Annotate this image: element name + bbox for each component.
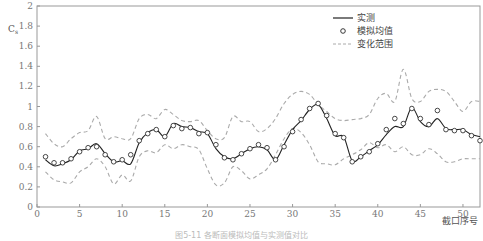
simulated-mean-marker <box>248 146 253 151</box>
x-tick-label: 15 <box>159 209 171 219</box>
simulated-mean-marker <box>52 160 57 165</box>
x-tick-label: 30 <box>287 209 299 219</box>
range-upper-line <box>46 69 481 147</box>
simulated-mean-marker <box>222 155 227 160</box>
simulated-mean-marker <box>137 138 142 143</box>
x-tick-label: 20 <box>202 209 214 219</box>
simulated-mean-marker <box>393 116 398 121</box>
x-axis-title: 截口序号 <box>442 215 478 226</box>
simulated-mean-marker <box>316 101 321 106</box>
legend-label-range: 变化范围 <box>357 38 393 49</box>
measured-path <box>46 104 481 166</box>
simulated-mean-marker <box>273 157 278 162</box>
range-lower-path <box>46 128 481 186</box>
simulated-mean-marker <box>469 133 474 138</box>
simulated-mean-marker <box>444 127 449 132</box>
x-tick-label: 45 <box>415 209 427 219</box>
x-tick-label: 40 <box>372 209 384 219</box>
simulated-mean-marker <box>171 123 176 128</box>
simulated-mean-marker <box>128 152 133 157</box>
y-tick-label: 1.6 <box>19 41 34 51</box>
y-tick-label: 0.2 <box>19 182 33 192</box>
legend-label-measured: 实测 <box>357 12 375 23</box>
simulated-mean-marker <box>205 130 210 135</box>
simulated-mean-marker <box>367 149 372 154</box>
y-tick-label: 1.2 <box>19 81 33 91</box>
simulated-mean-marker <box>103 152 108 157</box>
y-axis-title-sub: s <box>15 28 18 35</box>
x-axis: 05101520253035404550 <box>34 204 469 219</box>
y-tick-label: 2 <box>27 1 33 11</box>
x-tick-label: 10 <box>116 209 128 219</box>
simulated-mean-marker <box>197 131 202 136</box>
simulated-mean-marker <box>384 127 389 132</box>
measured-line <box>46 104 481 166</box>
y-tick-label: 1 <box>27 102 33 112</box>
simulated-mean-marker <box>145 131 150 136</box>
simulated-mean-marker <box>86 145 91 150</box>
legend: 实测 模拟均值 变化范围 <box>333 12 393 49</box>
y-tick-label: 1.4 <box>19 61 34 71</box>
simulated-mean-marker <box>290 129 295 134</box>
simulated-mean-marker <box>111 159 116 164</box>
simulated-mean-marker <box>77 149 82 154</box>
chart-canvas: 00.20.40.60.811.21.41.61.82 051015202530… <box>0 0 483 241</box>
range-lower-line <box>46 128 481 186</box>
simulated-mean-marker <box>350 159 355 164</box>
simulated-mean-marker <box>461 128 466 133</box>
simulated-mean-marker <box>299 117 304 122</box>
simulated-mean-marker <box>120 157 125 162</box>
x-tick-label: 25 <box>244 209 256 219</box>
x-tick-label: 5 <box>77 209 83 219</box>
y-tick-label: 1.8 <box>19 21 34 31</box>
simulated-mean-marker <box>410 106 415 111</box>
y-tick-label: 0.6 <box>19 142 34 152</box>
y-tick-label: 0.4 <box>19 162 34 172</box>
simulated-mean-marker <box>256 142 261 147</box>
simulated-mean-marker <box>435 108 440 113</box>
simulated-mean-marker <box>231 157 236 162</box>
range-upper-path <box>46 69 481 147</box>
simulated-mean-marker <box>239 151 244 156</box>
y-tick-label: 0 <box>27 202 33 212</box>
simulated-mean-marker <box>180 126 185 131</box>
simulated-mean-marker <box>214 142 219 147</box>
simulated-mean-marker <box>333 131 338 136</box>
simulated-mean-marker <box>418 116 423 121</box>
simulated-mean-marker <box>94 144 99 149</box>
simulated-mean-marker <box>341 135 346 140</box>
simulated-mean-marker <box>188 125 193 130</box>
legend-label-simulated-mean: 模拟均值 <box>357 25 393 36</box>
simulated-mean-marker <box>324 113 329 118</box>
simulated-mean-marker <box>69 156 74 161</box>
legend-circle-marker-icon <box>341 29 346 34</box>
x-tick-label: 35 <box>329 209 341 219</box>
simulated-mean-marker <box>60 160 65 165</box>
y-axis-title: Cs <box>8 24 18 35</box>
figure-caption: 图5-11 各断面模拟均值与实测值对比 <box>0 229 483 240</box>
simulated-mean-marker <box>162 134 167 139</box>
simulated-mean-marker <box>358 154 363 159</box>
simulated-mean-marker <box>452 128 457 133</box>
simulated-mean-marker <box>478 138 483 143</box>
simulated-mean-marker <box>43 154 48 159</box>
simulated-mean-marker <box>427 122 432 127</box>
simulated-mean-marker <box>307 106 312 111</box>
y-tick-label: 0.8 <box>19 122 34 132</box>
simulated-mean-marker <box>265 145 270 150</box>
simulated-mean-marker <box>154 127 159 132</box>
simulated-mean-marker <box>282 144 287 149</box>
simulated-mean-marker <box>401 121 406 126</box>
x-tick-label: 0 <box>34 209 40 219</box>
simulated-mean-marker <box>375 141 380 146</box>
